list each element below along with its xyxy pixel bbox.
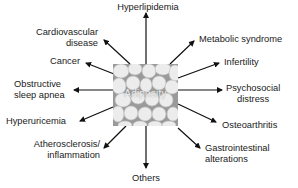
arrow-cancer — [86, 63, 114, 74]
arrow-hyperuricemia — [80, 107, 113, 121]
adipose-tissue-image: Adiposity — [113, 64, 178, 126]
label-psychosocial: Psychosocial distress — [226, 83, 280, 104]
label-cancer: Cancer — [30, 56, 80, 67]
label-infertility: Infertility — [224, 57, 259, 68]
label-cardiovascular: Cardiovascular disease — [20, 27, 98, 48]
label-hyperuricemia: Hyperuricemia — [6, 116, 66, 127]
label-osteoarthritis: Osteoarthritis — [222, 120, 277, 131]
label-metabolic: Metabolic syndrome — [199, 34, 282, 45]
label-osa: Obstructive sleep apnea — [14, 79, 65, 100]
label-others: Others — [116, 173, 176, 184]
center-label: Adiposity — [113, 88, 178, 99]
arrow-gastrointestinal — [178, 128, 200, 148]
label-gastrointestinal: Gastrointestinal alterations — [205, 143, 270, 164]
label-atherosclerosis: Atherosclerosis/ inflammation — [10, 139, 100, 160]
arrow-osteoarthritis — [178, 104, 216, 122]
label-hyperlipidemia: Hyperlipidemia — [110, 2, 186, 13]
arrow-cardiovascular — [104, 40, 130, 64]
arrow-atherosclerosis — [104, 126, 126, 148]
arrow-metabolic — [170, 41, 194, 64]
arrow-infertility — [178, 63, 219, 78]
